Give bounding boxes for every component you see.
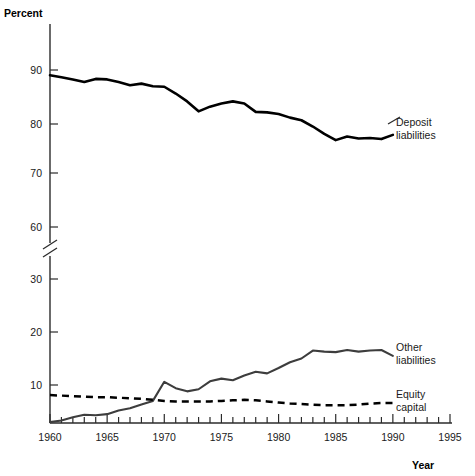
x-tick-label-1965: 1965 — [95, 431, 119, 443]
series-label-equity-line1: Equity — [396, 388, 426, 400]
series-label-deposit-liabilities: Deposit liabilities — [396, 116, 436, 141]
x-tick-label-1990: 1990 — [381, 431, 405, 443]
axis-lines — [50, 24, 452, 423]
y-tick-90: 90 — [30, 64, 58, 76]
x-axis-tick-labels: 19601965197019751980198519901995 — [38, 431, 462, 443]
x-tick-label-1960: 1960 — [38, 431, 62, 443]
y-tick-10: 10 — [30, 379, 58, 391]
y-tick-70: 70 — [30, 167, 58, 179]
x-axis-ticks — [50, 414, 450, 423]
y-tick-label-60: 60 — [30, 221, 42, 233]
x-tick-label-1980: 1980 — [267, 431, 291, 443]
series-line-other-liabilities — [50, 350, 393, 422]
y-axis-title: Percent — [4, 7, 43, 19]
y-tick-label-10: 10 — [30, 379, 42, 391]
y-tick-80: 80 — [30, 118, 58, 130]
y-axis-ticks: 90 80 70 60 30 20 — [30, 64, 58, 391]
x-axis-title: Year — [412, 459, 434, 471]
series-label-deposit-line2: liabilities — [396, 129, 436, 141]
y-tick-label-70: 70 — [30, 167, 42, 179]
y-tick-label-90: 90 — [30, 64, 42, 76]
y-tick-60: 60 — [30, 221, 58, 233]
y-tick-label-80: 80 — [30, 118, 42, 130]
chart-container: Percent Year 90 80 70 — [0, 0, 475, 476]
x-tick-label-1970: 1970 — [153, 431, 177, 443]
x-tick-label-1975: 1975 — [210, 431, 234, 443]
y-tick-30: 30 — [30, 273, 58, 285]
series-label-deposit-line1: Deposit — [396, 116, 432, 128]
series-label-equity-capital: Equity capital — [396, 388, 426, 413]
series-line-equity-capital — [50, 395, 393, 405]
series-label-other-line1: Other — [396, 341, 423, 353]
series-label-other-line2: liabilities — [396, 354, 436, 366]
series-label-other-liabilities: Other liabilities — [396, 341, 436, 366]
y-tick-label-30: 30 — [30, 273, 42, 285]
x-tick-label-1985: 1985 — [324, 431, 348, 443]
series-label-equity-line2: capital — [396, 401, 426, 413]
line-chart-svg: Percent Year 90 80 70 — [0, 0, 475, 476]
y-tick-label-20: 20 — [30, 326, 42, 338]
x-tick-label-1995: 1995 — [438, 431, 462, 443]
series-line-deposit-liabilities — [50, 75, 393, 140]
y-tick-20: 20 — [30, 326, 58, 338]
